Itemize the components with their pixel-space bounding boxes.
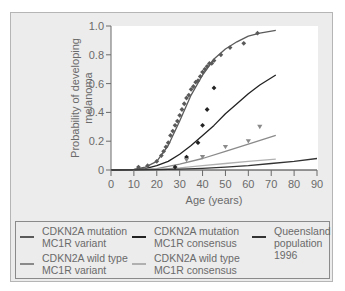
legend-label: CDKN2A wild type MC1R variant [42, 252, 128, 276]
legend-item-wildtype-consensus: CDKN2A wild type MC1R consensus [132, 252, 240, 276]
x-tick-label: 80 [288, 178, 300, 190]
y-tick-label: 0 [98, 164, 104, 176]
y-tick-label: 0.8 [89, 49, 104, 61]
legend-item-mutation-variant: CDKN2A mutation MC1R variant [20, 225, 127, 249]
x-tick-label: 20 [151, 178, 163, 190]
y-tick-label: 0.2 [89, 135, 104, 147]
legend-swatch [20, 263, 34, 265]
legend-label: CDKN2A mutation MC1R consensus [154, 225, 239, 249]
plot-area [111, 26, 318, 170]
x-axis-label: Age (years) [186, 194, 243, 206]
chart: 00.20.40.60.81.00102030405060708090 Prob… [0, 0, 345, 220]
x-tick-label: 90 [311, 178, 323, 190]
legend-label: Queensland population 1996 [274, 225, 331, 261]
x-tick-label: 60 [242, 178, 254, 190]
y-axis-label-line1: Probability of developing [69, 38, 81, 158]
x-tick-label: 70 [265, 178, 277, 190]
x-tick-label: 0 [108, 178, 114, 190]
legend-item-queensland: Queensland population 1996 [252, 225, 331, 261]
legend-swatch [132, 236, 146, 238]
legend-item-wildtype-variant: CDKN2A wild type MC1R variant [20, 252, 128, 276]
legend: CDKN2A mutation MC1R variant CDKN2A muta… [15, 221, 330, 279]
legend-item-mutation-consensus: CDKN2A mutation MC1R consensus [132, 225, 239, 249]
x-tick-label: 30 [174, 178, 186, 190]
legend-label: CDKN2A wild type MC1R consensus [154, 252, 240, 276]
legend-label: CDKN2A mutation MC1R variant [42, 225, 127, 249]
x-tick-label: 10 [128, 178, 140, 190]
y-tick-label: 1.0 [89, 20, 104, 32]
y-axis-label-line2: melanoma [82, 71, 94, 123]
legend-swatch [132, 263, 146, 265]
x-tick-label: 50 [219, 178, 231, 190]
x-tick-label: 40 [196, 178, 208, 190]
legend-swatch [20, 236, 34, 238]
legend-swatch [252, 236, 266, 238]
